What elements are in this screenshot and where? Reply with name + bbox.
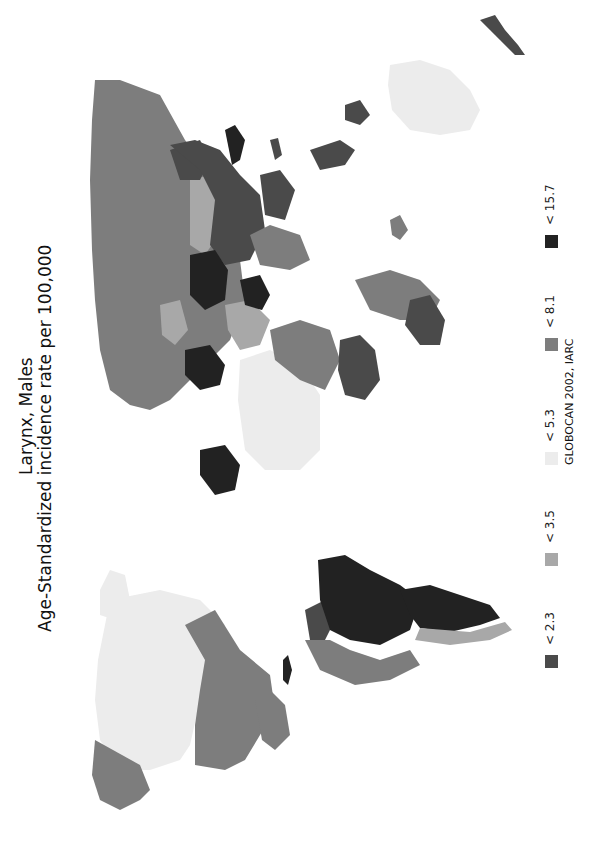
legend-label: < 3.5 [543, 510, 557, 543]
legend-swatch [545, 338, 558, 351]
source-credit: GLOBOCAN 2002, IARC [563, 339, 576, 465]
legend-label: < 8.1 [543, 295, 557, 328]
region-japan-korea [225, 125, 245, 165]
region-western-europe [185, 345, 225, 390]
region-southern-africa [405, 295, 445, 345]
region-indonesia [310, 140, 355, 170]
region-andean [305, 640, 420, 685]
legend-swatch [545, 655, 558, 668]
region-madagascar [390, 215, 408, 240]
region-southeast-asia [260, 170, 295, 220]
map-subtitle: Age-Standardized incidence rate per 100,… [35, 245, 55, 632]
region-cuba [283, 655, 292, 685]
legend-label: < 15.7 [543, 184, 557, 225]
americas [92, 555, 512, 810]
eastern-hemisphere [90, 15, 525, 495]
legend-swatch [545, 235, 558, 248]
region-philippines [270, 138, 282, 160]
world-choropleth-map [0, 0, 596, 846]
region-new-zealand [480, 15, 525, 55]
legend-label: < 2.3 [543, 612, 557, 645]
region-png [345, 100, 370, 125]
legend-swatch [545, 553, 558, 566]
region-india [250, 225, 310, 270]
region-argentina [400, 585, 500, 632]
map-title: Larynx, Males [16, 357, 36, 475]
region-mexico [255, 690, 290, 750]
region-central-africa [338, 335, 380, 400]
legend-swatch [545, 452, 558, 465]
region-iberia [200, 445, 240, 495]
legend-label: < 5.3 [543, 409, 557, 442]
region-australia [388, 60, 480, 135]
